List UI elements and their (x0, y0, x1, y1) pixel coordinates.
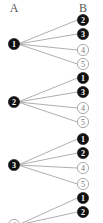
edge-2-1 (18, 78, 77, 102)
edge-1-2 (18, 20, 77, 44)
node-label: 1 (81, 194, 85, 203)
node-label: 1 (12, 40, 16, 49)
target-node-5: 5 (77, 58, 88, 69)
tree-diagram: A B 234511345212453124 (0, 0, 103, 223)
edge-3-1 (18, 139, 77, 165)
edges (18, 20, 77, 223)
edge-4-1 (18, 198, 77, 223)
target-node-1: 1 (77, 72, 88, 83)
target-node-3: 3 (77, 86, 88, 97)
node-label: 2 (81, 149, 85, 158)
target-node-4: 4 (77, 44, 88, 55)
column-header-a: A (10, 1, 19, 15)
edge-1-3 (18, 34, 77, 44)
node-label: 5 (81, 118, 85, 127)
target-node-4: 4 (77, 162, 88, 173)
target-node-2: 2 (77, 14, 88, 25)
node-label: 4 (81, 46, 85, 55)
node-label: 4 (81, 164, 85, 173)
edge-3-2 (18, 153, 77, 165)
node-label: 1 (81, 74, 85, 83)
source-node-1: 1 (8, 38, 19, 49)
source-node-3: 3 (8, 159, 19, 170)
node-label: 5 (81, 180, 85, 189)
node-label: 3 (81, 88, 85, 97)
source-node-4: 4 (8, 219, 19, 223)
target-node-4: 4 (77, 102, 88, 113)
target-node-1: 1 (77, 192, 88, 203)
node-label: 2 (81, 208, 85, 217)
node-label: 3 (81, 30, 85, 39)
edge-2-3 (18, 92, 77, 102)
nodes: 234511345212453124 (8, 14, 88, 223)
target-node-2: 2 (77, 206, 88, 217)
node-label: 4 (12, 221, 16, 223)
column-header-b: B (79, 1, 87, 15)
target-node-1: 1 (77, 133, 88, 144)
target-node-3: 3 (77, 28, 88, 39)
node-label: 1 (81, 135, 85, 144)
target-node-5: 5 (77, 178, 88, 189)
node-label: 3 (12, 161, 16, 170)
node-label: 2 (81, 16, 85, 25)
node-label: 2 (12, 98, 16, 107)
target-node-5: 5 (77, 116, 88, 127)
source-node-2: 2 (8, 96, 19, 107)
target-node-2: 2 (77, 147, 88, 158)
node-label: 4 (81, 104, 85, 113)
node-label: 5 (81, 60, 85, 69)
